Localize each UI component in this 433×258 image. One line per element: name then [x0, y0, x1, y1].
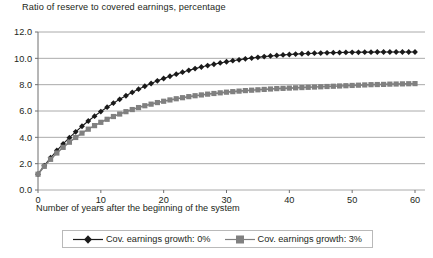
data-point-diamond: [343, 50, 349, 56]
data-point-square: [324, 84, 329, 89]
data-point-square: [394, 81, 399, 86]
data-point-square: [262, 87, 267, 92]
data-point-square: [362, 82, 367, 87]
data-point-diamond: [293, 51, 299, 57]
data-point-diamond: [305, 51, 311, 57]
data-point-diamond: [286, 52, 292, 58]
data-point-diamond: [324, 50, 330, 56]
data-point-square: [174, 96, 179, 101]
data-point-square: [136, 105, 141, 110]
data-point-diamond: [117, 96, 123, 102]
data-point-square: [42, 164, 47, 169]
data-point-diamond: [192, 66, 198, 72]
data-point-diamond: [412, 49, 418, 55]
data-point-square: [149, 102, 154, 107]
series-line: [38, 84, 415, 175]
legend-item-series-1: Cov. earnings growth: 3%: [225, 234, 363, 245]
data-point-diamond: [337, 50, 343, 56]
y-tick-label: 2.0: [19, 159, 32, 169]
data-point-square: [337, 83, 342, 88]
data-point-diamond: [136, 86, 142, 92]
data-point-square: [350, 83, 355, 88]
y-tick-label: 10.0: [14, 54, 32, 64]
data-point-square: [98, 120, 103, 125]
data-point-square: [205, 92, 210, 97]
data-point-square: [192, 93, 197, 98]
data-series-layer: [35, 49, 418, 177]
legend-label-series-1: Cov. earnings growth: 3%: [258, 234, 363, 244]
data-point-square: [412, 81, 417, 86]
data-point-diamond: [180, 69, 186, 75]
data-point-diamond: [142, 83, 148, 89]
data-point-square: [375, 82, 380, 87]
data-point-diamond: [224, 59, 230, 65]
data-point-diamond: [318, 50, 324, 56]
data-point-diamond: [374, 49, 380, 55]
data-point-diamond: [154, 78, 160, 84]
data-point-diamond: [236, 57, 242, 63]
data-point-diamond: [198, 64, 204, 70]
x-axis-ticks: [38, 190, 415, 193]
data-point-square: [142, 103, 147, 108]
data-point-square: [255, 87, 260, 92]
data-point-diamond: [280, 52, 286, 58]
y-tick-label: 6.0: [19, 106, 32, 116]
data-point-diamond: [330, 50, 336, 56]
data-point-diamond: [217, 60, 223, 66]
data-point-square: [287, 85, 292, 90]
data-point-square: [73, 135, 78, 140]
y-tick-label: 8.0: [19, 80, 32, 90]
data-point-diamond: [368, 49, 374, 55]
data-point-square: [123, 109, 128, 114]
data-point-square: [293, 85, 298, 90]
y-tick-label: 4.0: [19, 133, 32, 143]
data-point-square: [224, 90, 229, 95]
data-point-diamond: [381, 49, 387, 55]
x-axis-title: Number of years after the beginning of t…: [36, 203, 240, 213]
data-point-diamond: [161, 76, 167, 82]
plot-area: 12.010.08.06.04.02.00.0 0102030405060: [0, 0, 433, 205]
data-point-square: [199, 92, 204, 97]
data-point-square: [86, 127, 91, 132]
data-point-diamond: [356, 49, 362, 55]
data-point-square: [230, 89, 235, 94]
data-point-square: [61, 145, 66, 150]
data-point-diamond: [393, 49, 399, 55]
data-point-square: [117, 111, 122, 116]
data-point-diamond: [406, 49, 412, 55]
data-point-square: [318, 84, 323, 89]
data-point-square: [280, 86, 285, 91]
legend-item-series-0: Cov. earnings growth: 0%: [73, 234, 211, 245]
data-point-square: [211, 91, 216, 96]
data-point-diamond: [255, 54, 261, 60]
data-point-diamond: [129, 89, 135, 95]
data-point-diamond: [111, 100, 117, 106]
y-gridlines: [38, 32, 425, 190]
data-point-square: [130, 107, 135, 112]
y-axis-line: [35, 32, 38, 190]
y-tick-label: 12.0: [14, 27, 32, 37]
data-point-square: [406, 81, 411, 86]
data-point-square: [249, 88, 254, 93]
data-point-square: [35, 172, 40, 177]
data-point-square: [236, 89, 241, 94]
data-point-diamond: [173, 71, 179, 77]
data-point-square: [274, 86, 279, 91]
data-point-square: [243, 88, 248, 93]
data-point-diamond: [148, 81, 154, 87]
y-tick-label: 0.0: [19, 185, 32, 195]
data-point-diamond: [400, 49, 406, 55]
data-point-square: [356, 83, 361, 88]
data-point-diamond: [349, 49, 355, 55]
data-point-square: [268, 86, 273, 91]
y-tick-labels: 12.010.08.06.04.02.00.0: [14, 27, 32, 195]
series-0: [35, 49, 418, 177]
data-point-diamond: [274, 53, 280, 59]
data-point-square: [105, 117, 110, 122]
data-point-square: [186, 94, 191, 99]
data-point-diamond: [186, 67, 192, 73]
data-point-diamond: [312, 50, 318, 56]
data-point-square: [331, 84, 336, 89]
data-point-square: [67, 140, 72, 145]
data-point-square: [167, 97, 172, 102]
